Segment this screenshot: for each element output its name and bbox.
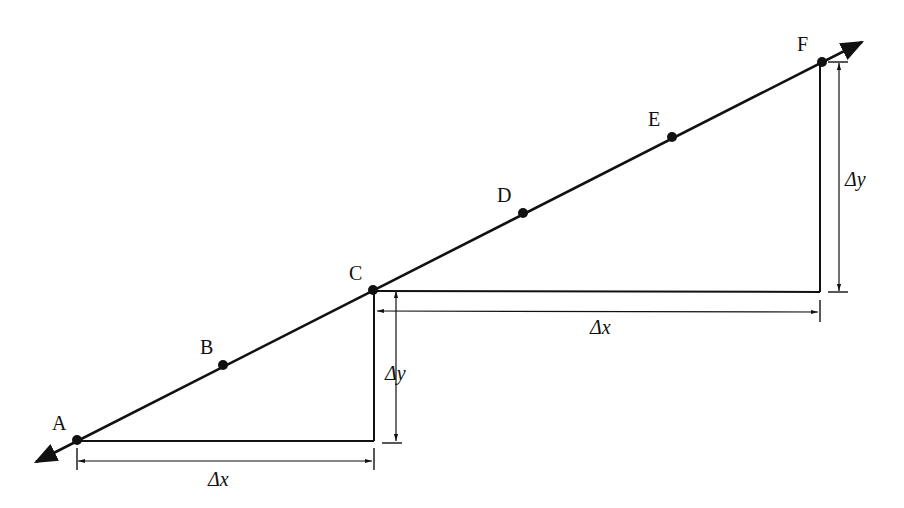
label-d: D [497,184,511,206]
point-f [817,57,827,67]
point-e [667,132,677,142]
point-labels: A B C D E F [52,33,808,434]
run-dimension-2 [377,311,818,312]
label-e: E [648,108,660,130]
label-a: A [52,412,67,434]
triangle-c-to-f [374,62,848,322]
run-label-1: Δx [207,468,229,490]
run-leg-2 [374,291,820,292]
point-b [218,360,228,370]
label-c: C [349,262,362,284]
triangle-a-to-c [77,290,402,470]
run-label-2: Δx [589,316,611,338]
label-f: F [797,33,808,55]
rise-label-1: Δy [384,362,406,385]
slope-diagram: A B C D E F Δx Δy Δx Δy [0,0,904,508]
point-a [72,435,82,445]
point-c [368,285,378,295]
main-line [36,42,862,462]
rise-label-2: Δy [844,168,866,191]
label-b: B [200,336,213,358]
point-d [518,208,528,218]
